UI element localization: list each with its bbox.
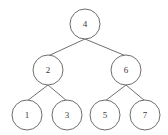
edge-node-6-to-node-5: [105, 85, 126, 101]
tree-node-root[interactable]: 4: [70, 9, 100, 39]
node-label-left: 2: [46, 65, 51, 75]
tree-node-left-right[interactable]: 3: [52, 100, 82, 130]
node-label-left-left: 1: [25, 110, 30, 120]
edge-node-2-to-node-1: [27, 85, 48, 101]
node-label-root: 4: [83, 19, 88, 29]
node-label-right-right: 7: [143, 110, 148, 120]
edge-node-2-to-node-3: [48, 85, 67, 101]
binary-tree-diagram: 4 2 6 1 3 5 7: [0, 0, 168, 135]
tree-node-right-right[interactable]: 7: [130, 100, 160, 130]
edge-root-to-node-2: [48, 39, 85, 56]
node-label-right: 6: [124, 65, 129, 75]
tree-node-left[interactable]: 2: [33, 55, 63, 85]
node-group: 4 2 6 1 3 5 7: [12, 9, 160, 130]
node-label-left-right: 3: [65, 110, 70, 120]
tree-node-right-left[interactable]: 5: [90, 100, 120, 130]
node-label-right-left: 5: [103, 110, 108, 120]
tree-node-left-left[interactable]: 1: [12, 100, 42, 130]
edge-root-to-node-6: [85, 39, 126, 56]
edge-node-6-to-node-7: [126, 85, 145, 101]
tree-node-right[interactable]: 6: [111, 55, 141, 85]
